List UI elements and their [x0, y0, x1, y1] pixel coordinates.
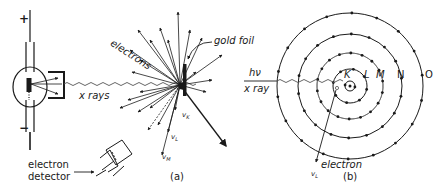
- shell-label-M: M: [376, 70, 385, 80]
- electron-detector-label-2: detector: [28, 172, 70, 182]
- electron-detector-icon: [96, 140, 132, 176]
- x-rays-label: x rays: [79, 91, 109, 101]
- h-nu-label: hν: [249, 68, 261, 78]
- nu-K-label: vK: [182, 112, 189, 120]
- electron-detector-label-1: electron: [28, 160, 69, 170]
- panel-b-caption: (b): [343, 172, 357, 182]
- gold-foil: [183, 64, 187, 96]
- nu-M-label: vM: [162, 154, 170, 162]
- ejected-electron-path: [316, 90, 336, 162]
- x-ray-beam-b: [277, 80, 343, 83]
- photoelectron-diagram: + − x rays electrons gold foil electron …: [0, 0, 439, 196]
- electron-label: electron: [321, 160, 362, 170]
- shell-label-O: O: [425, 70, 433, 80]
- x-ray-label: x ray: [244, 84, 269, 94]
- nu-L-label-b: vL: [311, 171, 318, 179]
- anode-plus-label: +: [19, 13, 29, 25]
- shell-label-L: L: [364, 70, 370, 80]
- panel-a-caption: (a): [170, 172, 184, 182]
- shell-label-K: K: [344, 70, 351, 80]
- nu-L-label: vL: [171, 134, 178, 142]
- gold-foil-leader: [188, 42, 212, 59]
- cathode-minus-label: −: [19, 122, 29, 134]
- gold-foil-label: gold foil: [214, 36, 254, 46]
- shell-label-N: N: [397, 70, 404, 80]
